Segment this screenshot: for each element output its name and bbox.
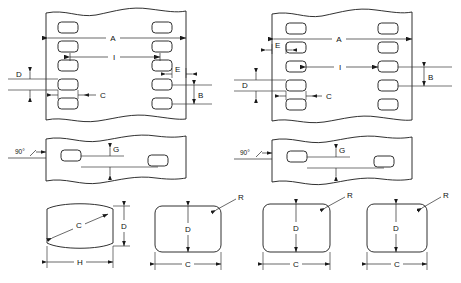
dimension-label-C: C [100, 91, 106, 100]
dimension-label-D: D [121, 222, 127, 231]
dimension-label-R: R [238, 193, 244, 202]
angle-90-callout: 90° [8, 148, 46, 158]
diagonal-C-dimension: C [52, 214, 108, 238]
dimension-D: D [234, 73, 286, 98]
top-right-plan-view: A I E C D [234, 9, 452, 123]
dimension-G: G [81, 145, 158, 175]
section-rounded-square: R D C [367, 191, 449, 270]
dimension-label-E: E [275, 41, 280, 50]
top-left-plan-view: A I C D [8, 8, 212, 122]
dimension-label-D: D [242, 81, 248, 90]
technical-drawing-sheet: A I C D [0, 0, 461, 283]
section-rounded-rect-wide: R D C [155, 193, 244, 270]
dimension-I: I [70, 51, 160, 62]
radius-callout-R: R [216, 193, 244, 210]
dimension-C: C [367, 252, 427, 270]
hole-column-left [58, 22, 78, 109]
dimension-D: D [8, 70, 58, 97]
dimension-label-R: R [443, 191, 449, 200]
dimension-B: B [398, 67, 452, 86]
dimension-C: C [155, 252, 221, 270]
dimension-D: D [290, 204, 302, 252]
dimension-label-H: H [77, 258, 83, 267]
radius-callout-R: R [325, 191, 353, 208]
dimension-label-B: B [428, 73, 433, 82]
hole-column-right [378, 23, 398, 110]
dimension-label-E: E [175, 65, 180, 74]
dimension-label-C: C [185, 260, 191, 269]
dimension-label-D: D [393, 224, 399, 233]
section-barrel: C D H [47, 204, 130, 268]
dimension-label-D: D [185, 225, 191, 234]
dimension-D: D [390, 204, 402, 252]
dimension-label-90deg: 90° [240, 149, 250, 156]
dimension-B: B [172, 85, 212, 104]
dimension-label-C: C [326, 92, 332, 101]
dimension-D: D [182, 206, 194, 252]
dimension-label-C: C [293, 260, 299, 269]
radius-callout-R: R [422, 191, 449, 208]
middle-left-section-view: 90° G [8, 135, 186, 184]
dimension-D: D [113, 206, 130, 246]
dimension-label-A: A [336, 35, 342, 44]
dimension-label-C: C [76, 221, 82, 230]
dimension-label-G: G [339, 146, 345, 155]
dimension-label-A: A [110, 34, 116, 43]
dimension-H: H [47, 246, 113, 268]
drawing-canvas: A I C D [0, 0, 461, 283]
dimension-label-D: D [293, 224, 299, 233]
dimension-C: C [263, 252, 330, 270]
hole-column-right [152, 22, 172, 109]
dimension-label-I: I [339, 63, 341, 72]
middle-right-section-view: 90° G [234, 136, 412, 185]
section-rounded-rect-mid: R D C [263, 191, 353, 270]
dimension-label-90deg: 90° [15, 148, 25, 155]
dimension-label-I: I [113, 53, 115, 62]
hole-column-left [286, 23, 306, 110]
dimension-label-C: C [394, 260, 400, 269]
dimension-G: G [307, 146, 384, 176]
dimension-label-G: G [113, 145, 119, 154]
dimension-label-B: B [198, 91, 203, 100]
dimension-I: I [306, 61, 378, 72]
dimension-label-D: D [16, 70, 22, 79]
angle-90-callout: 90° [234, 149, 272, 159]
dimension-label-R: R [347, 191, 353, 200]
